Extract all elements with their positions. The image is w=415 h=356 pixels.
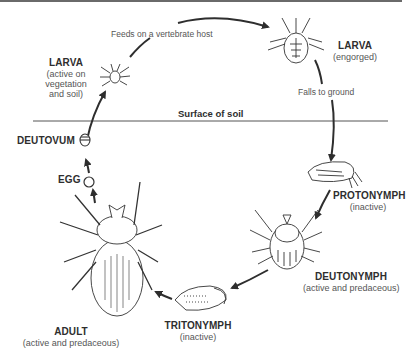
- arrow-falls-to-protonymph: [331, 100, 334, 160]
- arrow-protonymph-to-deutonymph: [316, 190, 330, 218]
- adult-title: ADULT: [21, 326, 121, 338]
- larva-active-label: LARVA (active on vegetation and soil): [42, 57, 90, 100]
- arrow-engorged-to-falls: [315, 60, 322, 84]
- deutonymph-label: DEUTONYMPH (active and predaceous): [303, 271, 399, 293]
- arrow-egg-to-deutovum: [86, 160, 89, 173]
- deutovum-icon: [80, 134, 90, 146]
- egg-label: EGG: [58, 174, 81, 186]
- larva-active-desc-2: vegetation: [42, 79, 90, 89]
- adult-label: ADULT (active and predaceous): [21, 326, 121, 348]
- arrow-tritonymph-to-adult: [156, 292, 172, 299]
- arrow-adult-to-egg: [93, 190, 95, 203]
- egg-icon: [84, 177, 94, 187]
- larva-engorged-desc: (engorged): [330, 52, 380, 62]
- tritonymph-icon: [175, 286, 226, 310]
- tritonymph-desc: (inactive): [162, 332, 234, 342]
- protonymph-label: PROTONYMPH (inactive): [333, 190, 403, 212]
- adult-desc: (active and predaceous): [21, 338, 121, 348]
- larva-engorged-title: LARVA: [330, 40, 380, 52]
- deutonymph-desc: (active and predaceous): [303, 283, 399, 293]
- falls-caption: Falls to ground: [298, 87, 354, 97]
- larva-engorged-icon: [268, 18, 324, 63]
- larva-active-desc-1: (active on: [42, 69, 90, 79]
- arrow-larva-to-feeds: [130, 38, 150, 57]
- protonymph-desc: (inactive): [333, 202, 403, 212]
- adult-icon: [60, 182, 162, 316]
- protonymph-icon: [308, 162, 362, 188]
- tritonymph-label: TRITONYMPH (inactive): [162, 320, 234, 342]
- feeds-caption: Feeds on a vertebrate host: [111, 29, 213, 39]
- larva-active-icon: [100, 64, 130, 86]
- arrow-deutonymph-to-tritonymph: [232, 270, 268, 288]
- deutovum-label: DEUTOVUM: [17, 135, 75, 147]
- surface-of-soil-label: Surface of soil: [178, 108, 243, 119]
- larva-active-desc-3: and soil): [42, 89, 90, 99]
- arrow-feeds-to-engorged: [178, 18, 268, 27]
- protonymph-title: PROTONYMPH: [333, 190, 403, 202]
- larva-engorged-label: LARVA (engorged): [330, 40, 380, 62]
- deutonymph-title: DEUTONYMPH: [303, 271, 399, 283]
- deutonymph-icon: [250, 210, 322, 269]
- larva-active-title: LARVA: [42, 57, 90, 69]
- tritonymph-title: TRITONYMPH: [162, 320, 234, 332]
